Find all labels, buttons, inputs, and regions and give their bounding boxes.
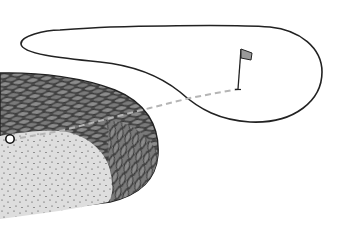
golf-ball-icon [6, 135, 14, 143]
golf-hole-illustration [0, 0, 354, 239]
